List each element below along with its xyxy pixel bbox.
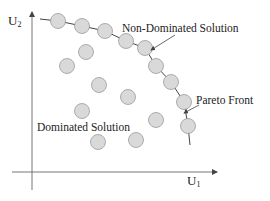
- pareto-solution-point: [181, 119, 196, 134]
- pareto-solution-point: [138, 41, 153, 56]
- pareto-solution-point: [98, 24, 113, 39]
- dominated-solution-point: [75, 104, 90, 119]
- non-dominated-arrow: [151, 35, 175, 50]
- pareto-solution-point: [164, 75, 179, 90]
- pareto-solution-point: [177, 95, 192, 110]
- dominated-solution-point: [121, 90, 136, 105]
- dominated-solution-point: [91, 135, 106, 150]
- dominated-label: Dominated Solution: [37, 122, 130, 134]
- dominated-solution-point: [149, 113, 164, 128]
- y-axis-label: U2: [8, 14, 21, 29]
- non-dominated-label: Non-Dominated Solution: [122, 23, 239, 35]
- pareto-front-label: Pareto Front: [196, 95, 253, 107]
- dominated-points: [60, 45, 164, 150]
- dominated-solution-point: [92, 78, 107, 93]
- dominated-solution-point: [60, 59, 75, 74]
- x-axis-label: U1: [187, 174, 200, 189]
- pareto-solution-point: [149, 59, 164, 74]
- pareto-solution-point: [119, 34, 134, 49]
- dominated-solution-point: [129, 133, 144, 148]
- pareto-solution-point: [51, 14, 66, 29]
- pareto-solution-point: [75, 19, 90, 34]
- dominated-solution-point: [79, 45, 94, 60]
